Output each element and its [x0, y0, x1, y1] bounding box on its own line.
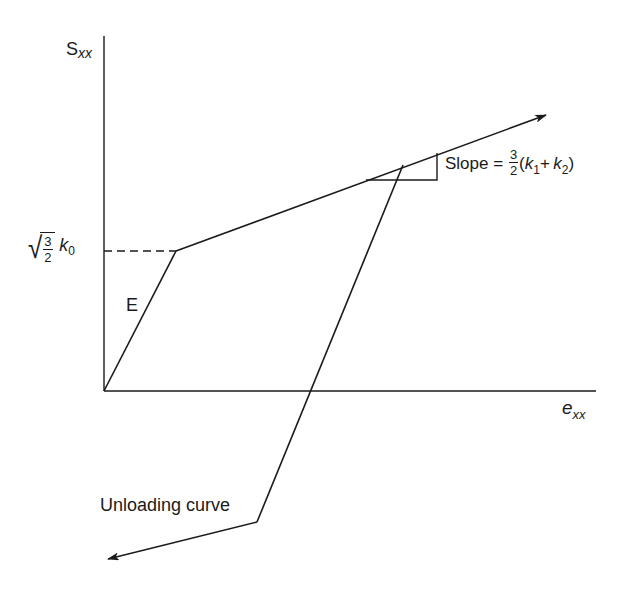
slope-fraction-denominator: 2	[510, 163, 517, 177]
radical-sign: √	[28, 233, 42, 263]
plastic-loading-line	[176, 115, 546, 251]
k1-symbol: k	[525, 154, 534, 173]
reverse-loading-line	[108, 522, 257, 559]
slope-label: Slope = 3 2 (k1+ k2)	[445, 150, 574, 179]
yield-subscript: 0	[68, 244, 75, 258]
unloading-curve	[257, 165, 403, 522]
x-axis-label-base: e	[562, 397, 573, 418]
elastic-modulus-label: E	[126, 296, 138, 314]
sqrt-expression: √ 3 2	[28, 232, 55, 264]
x-axis-label-subscript: xx	[573, 407, 586, 422]
slope-prefix: Slope =	[445, 154, 503, 173]
fraction-numerator: 3	[43, 235, 52, 250]
stress-strain-diagram	[0, 0, 638, 598]
k2-subscript: 2	[562, 163, 569, 177]
plus-sign: +	[540, 154, 550, 173]
fraction-denominator: 2	[44, 250, 51, 264]
fraction: 3 2	[43, 235, 52, 264]
y-axis-label-base: S	[66, 39, 78, 59]
yield-symbol: k	[59, 235, 68, 255]
unloading-curve-label: Unloading curve	[100, 496, 230, 514]
y-axis-label-subscript: xx	[78, 45, 92, 61]
y-axis-label: Sxx	[66, 40, 92, 58]
k2-symbol: k	[553, 154, 562, 173]
sqrt-radicand: 3 2	[40, 232, 54, 264]
slope-triangle	[366, 153, 437, 180]
x-axis-label: exx	[562, 398, 586, 417]
slope-fraction-numerator: 3	[509, 148, 518, 163]
k1-subscript: 1	[533, 163, 540, 177]
slope-fraction: 3 2	[509, 148, 518, 177]
elastic-loading-line	[104, 251, 176, 391]
yield-stress-label: √ 3 2 k0	[28, 232, 75, 264]
close-paren: )	[569, 154, 575, 173]
